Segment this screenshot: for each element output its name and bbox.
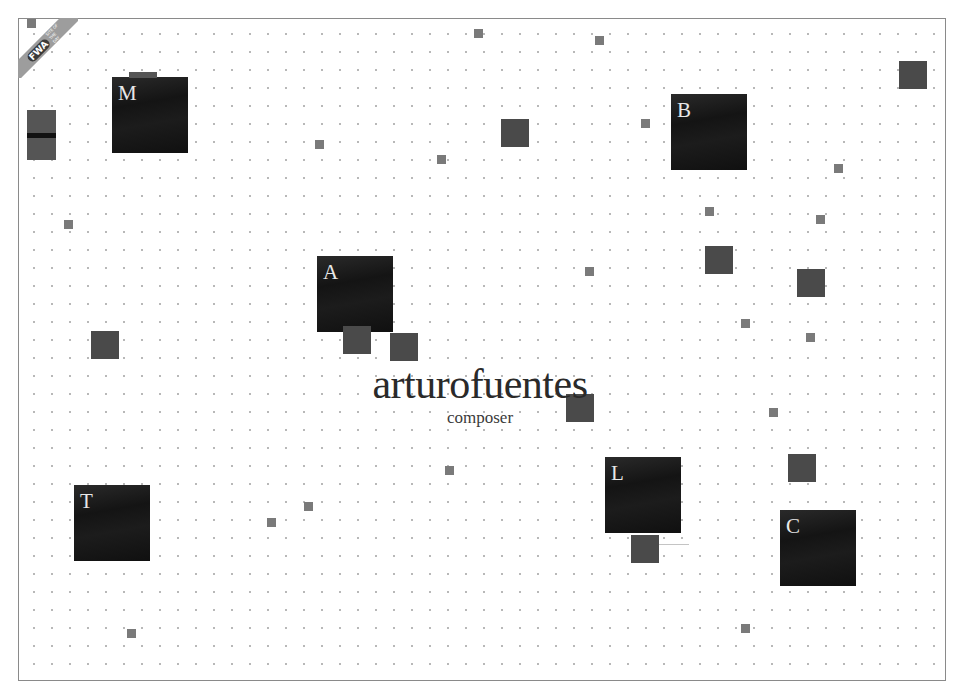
nav-square-c[interactable]: C	[780, 510, 856, 586]
site-title-block: arturofuentes composer	[320, 360, 640, 428]
decorative-dot-square	[127, 629, 136, 638]
nav-letter-c: C	[786, 514, 800, 538]
site-title[interactable]: arturofuentes	[320, 360, 640, 408]
decorative-dot-square	[806, 333, 815, 342]
site-subtitle: composer	[320, 408, 640, 428]
decorative-bar	[27, 133, 56, 138]
decorative-dot-square	[834, 164, 843, 173]
nav-square-l[interactable]: L	[605, 457, 681, 533]
decorative-tall-square	[27, 110, 56, 160]
decorative-dot-square	[474, 29, 483, 38]
nav-square-m[interactable]: M	[112, 77, 188, 153]
nav-letter-m: M	[118, 81, 137, 105]
decorative-dot-square	[741, 624, 750, 633]
decorative-square	[705, 246, 733, 274]
decorative-dot-square	[304, 502, 313, 511]
fwa-logo-icon: FWA	[25, 37, 51, 63]
decorative-square	[631, 535, 659, 563]
decorative-dot-square	[315, 140, 324, 149]
canvas-frame: M B A T L C	[18, 18, 946, 681]
decorative-dot-square	[595, 36, 604, 45]
decorative-dot-square	[741, 319, 750, 328]
decorative-square	[390, 333, 418, 361]
nav-letter-l: L	[611, 461, 624, 485]
nav-letter-t: T	[80, 489, 93, 513]
decorative-dot-square	[64, 220, 73, 229]
decorative-square	[91, 331, 119, 359]
fwa-badge[interactable]: FWA SITE OF THE DAY	[18, 18, 78, 78]
decorative-dot-square	[769, 408, 778, 417]
decorative-square	[797, 269, 825, 297]
square-tab	[129, 72, 157, 78]
decorative-square	[899, 61, 927, 89]
decorative-line	[659, 544, 689, 545]
decorative-square	[501, 119, 529, 147]
nav-square-b[interactable]: B	[671, 94, 747, 170]
decorative-dot-square	[445, 466, 454, 475]
nav-square-t[interactable]: T	[74, 485, 150, 561]
fwa-ribbon[interactable]: FWA SITE OF THE DAY	[18, 18, 78, 78]
decorative-dot-square	[705, 207, 714, 216]
decorative-dot-square	[585, 267, 594, 276]
decorative-square	[788, 454, 816, 482]
nav-letter-b: B	[677, 98, 691, 122]
decorative-dot-square	[816, 215, 825, 224]
decorative-dot-square	[437, 155, 446, 164]
nav-letter-a: A	[323, 260, 338, 284]
decorative-dot-square	[641, 119, 650, 128]
decorative-dot-square	[267, 518, 276, 527]
decorative-square	[343, 326, 371, 354]
nav-square-a[interactable]: A	[317, 256, 393, 332]
